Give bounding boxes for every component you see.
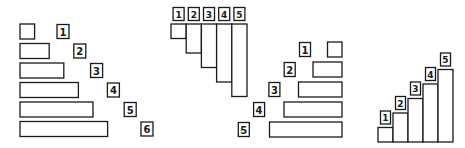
numeral-1: 1 [382,113,388,123]
numeral-card: 2 [188,8,199,21]
numeral-card: 6 [141,122,153,136]
numeral-card: 1 [300,43,311,57]
numeral-card: 3 [269,83,280,97]
numeral-card: 2 [396,97,406,110]
numeral-4: 4 [110,85,117,96]
numeral-5: 5 [236,10,242,20]
rod-1 [20,24,35,39]
numeral-card: 4 [107,83,119,97]
rod-3 [201,24,216,68]
numeral-5: 5 [240,125,247,136]
numeral-1: 1 [302,45,309,56]
numeral-2: 2 [397,99,403,109]
numeral-card: 4 [219,8,230,21]
rod-3 [299,82,343,97]
rod-3 [20,63,64,78]
panel-vertical-hanging: 12345 [171,8,247,97]
numeral-2: 2 [191,10,197,20]
rod-3 [408,99,423,143]
rod-2 [313,62,342,77]
rod-4 [284,102,342,117]
rod-5 [20,102,93,117]
numeral-2: 2 [76,46,83,57]
numeral-6: 6 [144,124,151,135]
number-rods-diagram: 123456 12345 12345 12345 [0,0,465,148]
numeral-3: 3 [412,84,418,94]
rod-1 [171,24,186,39]
numeral-card: 2 [284,63,295,77]
numeral-card: 4 [426,68,436,81]
numeral-3: 3 [271,85,278,96]
numeral-card: 5 [441,53,451,66]
rod-5 [270,122,343,137]
numeral-card: 1 [173,8,184,21]
rod-1 [328,42,343,57]
numeral-card: 5 [234,8,245,21]
numeral-1: 1 [175,10,181,20]
rod-4 [20,83,78,98]
numeral-5: 5 [127,105,134,116]
numeral-card: 1 [381,111,391,124]
rod-2 [393,113,408,142]
numeral-4: 4 [256,105,263,116]
rod-4 [423,84,438,142]
rod-5 [438,70,453,143]
numeral-3: 3 [93,66,100,77]
rod-5 [232,24,247,97]
panel-horizontal-right: 12345 [238,42,342,137]
numeral-4: 4 [427,70,433,80]
numeral-1: 1 [60,27,67,38]
numeral-3: 3 [206,10,212,20]
numeral-card: 5 [238,123,249,137]
numeral-card: 3 [91,64,103,78]
numeral-card: 4 [254,103,265,117]
rod-4 [217,24,232,82]
numeral-card: 3 [411,82,421,95]
numeral-4: 4 [221,10,227,20]
rod-2 [20,44,49,59]
panel-horizontal-left: 123456 [20,24,153,137]
numeral-card: 1 [57,25,69,39]
numeral-card: 5 [124,103,136,117]
rod-1 [378,128,393,143]
numeral-card: 3 [204,8,215,21]
numeral-2: 2 [286,65,293,76]
numeral-5: 5 [442,55,448,65]
numeral-card: 2 [74,44,86,58]
rod-6 [20,122,108,137]
rod-2 [186,24,201,53]
panel-vertical-rising: 12345 [378,53,453,142]
